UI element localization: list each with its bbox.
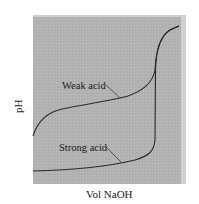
y-axis-label: pH — [12, 100, 24, 114]
strong-acid-label: Strong acid — [59, 142, 108, 153]
x-axis-label: Vol NaOH — [86, 188, 133, 200]
titration-chart: Weak acid Strong acid pH Vol NaOH — [0, 0, 199, 204]
weak-acid-label: Weak acid — [62, 80, 107, 91]
